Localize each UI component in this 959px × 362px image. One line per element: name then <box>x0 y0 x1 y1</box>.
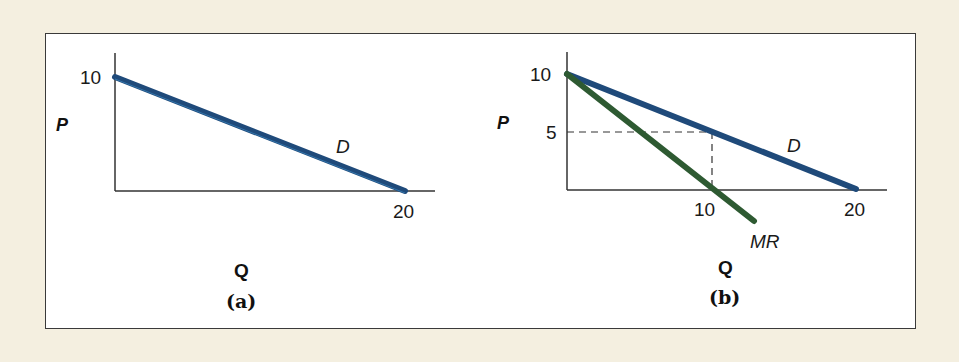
y-tick-10-a: 10 <box>80 67 101 88</box>
demand-curve-a-highlight <box>115 79 405 193</box>
panel-label-b: (b) <box>709 286 740 308</box>
y-axis-label-b: P <box>497 113 510 133</box>
x-tick-20-a: 20 <box>393 201 414 222</box>
y-tick-5-b: 5 <box>546 122 557 143</box>
x-axis-label-b: Q <box>718 257 733 278</box>
x-tick-20-b: 20 <box>844 199 865 220</box>
panel-a: 10 20 P D Q (a) <box>56 53 435 312</box>
y-tick-10-b: 10 <box>530 64 551 85</box>
y-axis-label-a: P <box>56 115 69 135</box>
mr-label: MR <box>750 231 780 252</box>
x-axis-label-a: Q <box>234 260 249 281</box>
x-tick-10-b: 10 <box>694 199 715 220</box>
panel-label-a: (a) <box>226 290 256 312</box>
marginal-revenue-curve <box>567 74 754 221</box>
demand-label-a: D <box>336 136 350 157</box>
panel-b: 10 5 10 20 P D MR Q (b) <box>497 52 887 308</box>
demand-label-b: D <box>787 135 801 156</box>
demand-curve-a <box>115 77 405 191</box>
chart-canvas: 10 20 P D Q (a) 10 5 10 20 P D MR Q (b) <box>0 0 959 362</box>
